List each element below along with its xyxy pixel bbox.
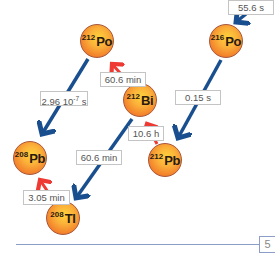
mass-number: 212 bbox=[150, 152, 163, 161]
half-life-label-tl208-pb208: 3.05 min bbox=[23, 190, 70, 205]
half-life-label-po216-pb212: 0.15 s bbox=[175, 90, 221, 105]
element-symbol: Po bbox=[96, 34, 112, 49]
half-life-label-pb212-bi212: 10.6 h bbox=[128, 126, 164, 141]
page-number: 5 bbox=[259, 236, 275, 253]
nuclide-tl208: 208Tl bbox=[46, 201, 80, 235]
half-life-unit: s bbox=[79, 96, 86, 107]
mass-number: 212 bbox=[82, 33, 95, 42]
half-life-label-bi212-tl208: 60.6 min bbox=[76, 150, 122, 165]
half-life-label-po212-pb208: 2.96 10-7 s bbox=[40, 91, 88, 106]
element-symbol: Tl bbox=[65, 211, 76, 226]
half-life-mantissa: 2.96 10 bbox=[42, 96, 74, 107]
mass-number: 208 bbox=[50, 210, 63, 219]
mass-number: 208 bbox=[15, 150, 28, 159]
footer-divider bbox=[16, 244, 260, 245]
nuclide-po216: 216Po bbox=[209, 24, 243, 58]
element-symbol: Pb bbox=[29, 151, 45, 166]
nuclide-pb208: 208Pb bbox=[13, 141, 47, 175]
element-symbol: Bi bbox=[141, 93, 153, 108]
mass-number: 212 bbox=[127, 92, 140, 101]
nuclide-pb212: 212Pb bbox=[148, 143, 182, 177]
element-symbol: Po bbox=[225, 34, 241, 49]
mass-number: 216 bbox=[211, 33, 224, 42]
half-life-label-into-po216: 55.6 s bbox=[228, 0, 274, 15]
element-symbol: Pb bbox=[164, 153, 180, 168]
decay-chain-diagram: 216Po 212Pb 212Bi 212Po 208Tl 208Pb 55.6… bbox=[0, 0, 275, 259]
nuclide-po212: 212Po bbox=[80, 24, 114, 58]
alpha-arrow-into-po216 bbox=[236, 14, 246, 22]
nuclide-bi212: 212Bi bbox=[123, 83, 157, 117]
half-life-label-bi212-po212: 60.6 min bbox=[100, 72, 146, 87]
